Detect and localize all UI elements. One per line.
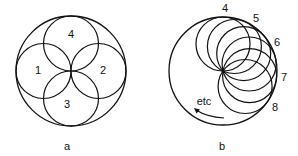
inner-circle-a-4 bbox=[44, 16, 99, 71]
inner-circle-b-5 bbox=[223, 49, 277, 103]
circle-label-a-1: 1 bbox=[35, 65, 41, 76]
inner-circle-a-1 bbox=[16, 44, 71, 99]
circle-label-b-6: 6 bbox=[274, 37, 280, 48]
center-point-b bbox=[221, 69, 224, 72]
circle-label-a-3: 3 bbox=[64, 99, 70, 110]
caption-a: a bbox=[64, 141, 70, 152]
direction-arrow bbox=[196, 110, 224, 118]
circle-label-a-4: 4 bbox=[68, 29, 74, 40]
circle-label-a-2: 2 bbox=[100, 65, 106, 76]
arrowhead-icon bbox=[194, 108, 200, 114]
inner-circle-b-1 bbox=[196, 17, 250, 71]
circle-label-b-7: 7 bbox=[281, 72, 287, 83]
caption-b: b bbox=[219, 141, 225, 152]
circle-label-b-5: 5 bbox=[253, 13, 259, 24]
inner-circle-b-2 bbox=[207, 20, 261, 74]
etc-label: etc bbox=[197, 96, 212, 107]
inner-circle-a-2 bbox=[71, 44, 126, 99]
circle-label-b-4: 4 bbox=[222, 3, 228, 14]
circle-label-b-8: 8 bbox=[272, 102, 278, 113]
inner-circle-a-3 bbox=[44, 71, 99, 126]
